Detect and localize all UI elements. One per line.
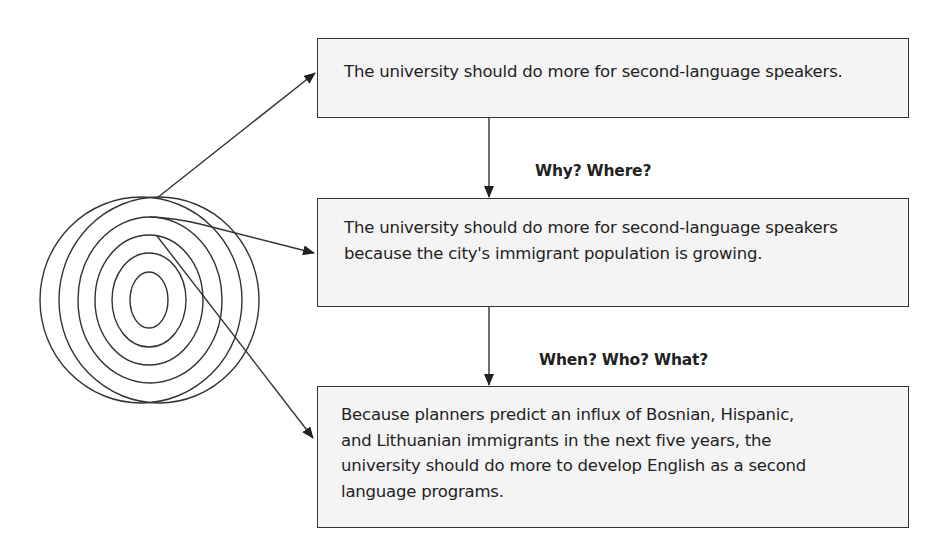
connector-label-when-who-what: When? Who? What? (539, 351, 708, 369)
arrow-target-to-box-3 (157, 236, 313, 438)
connector-label-why-where: Why? Where? (535, 162, 651, 180)
target-ring-4 (95, 235, 203, 365)
claim-box-3-text: Because planners predict an influx of Bo… (341, 402, 816, 504)
claim-box-1: The university should do more for second… (317, 38, 909, 118)
target-ring-5 (112, 253, 186, 347)
claim-box-1-text: The university should do more for second… (344, 59, 848, 85)
target-ring-3 (78, 217, 222, 383)
claim-box-2-text: The university should do more for second… (344, 215, 848, 266)
claim-box-3: Because planners predict an influx of Bo… (317, 386, 909, 528)
target-ring-outer-a (40, 197, 242, 403)
arrow-target-to-box-1 (157, 73, 315, 198)
target-ring-outer-b (59, 197, 259, 403)
concentric-target-icon (40, 197, 259, 403)
target-ring-6 (130, 272, 168, 328)
claim-box-2: The university should do more for second… (317, 198, 909, 307)
